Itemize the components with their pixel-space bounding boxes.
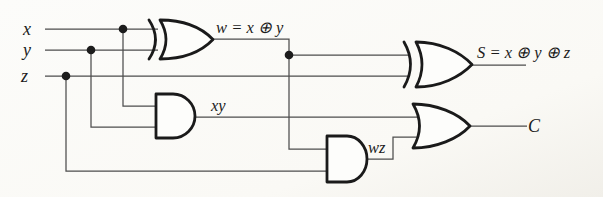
and2-body bbox=[327, 136, 367, 182]
xor2-gate bbox=[404, 42, 472, 87]
wire-w-to-xor2 bbox=[213, 39, 410, 55]
logic-circuit-diagram: x y z w = x ⊕ y xy wz S = x ⊕ y ⊕ z C bbox=[0, 0, 603, 197]
labels: x y z w = x ⊕ y xy wz S = x ⊕ y ⊕ z C bbox=[20, 18, 571, 157]
junction-x bbox=[119, 25, 128, 34]
and1-gate bbox=[156, 94, 195, 138]
xor2-body bbox=[416, 42, 472, 87]
input-label-x: x bbox=[22, 19, 31, 39]
xor1-input-arc bbox=[149, 20, 156, 59]
xor2-input-arc bbox=[404, 42, 411, 87]
full-adder-schematic: x y z w = x ⊕ y xy wz S = x ⊕ y ⊕ z C bbox=[0, 0, 603, 197]
output-label-carry: C bbox=[528, 116, 541, 136]
junction-w bbox=[285, 51, 294, 60]
xor1-body bbox=[160, 20, 213, 59]
signal-label-xy: xy bbox=[210, 96, 226, 115]
or-gate bbox=[413, 104, 470, 148]
output-label-sum: S = x ⊕ y ⊕ z bbox=[477, 43, 571, 62]
wire-branch-y-to-and1 bbox=[91, 50, 158, 127]
or-body bbox=[413, 104, 470, 148]
xor1-gate bbox=[149, 20, 213, 59]
input-label-z: z bbox=[20, 66, 28, 86]
junction-y bbox=[87, 46, 96, 55]
and1-body bbox=[156, 94, 195, 138]
and2-gate bbox=[327, 136, 367, 182]
wire-branch-x-to-and1 bbox=[123, 29, 158, 106]
wire-branch-w-to-and2 bbox=[289, 55, 329, 149]
input-label-y: y bbox=[21, 40, 31, 60]
junction-z bbox=[62, 72, 71, 81]
signal-label-w: w = x ⊕ y bbox=[216, 18, 284, 37]
signal-label-wz: wz bbox=[368, 138, 386, 157]
